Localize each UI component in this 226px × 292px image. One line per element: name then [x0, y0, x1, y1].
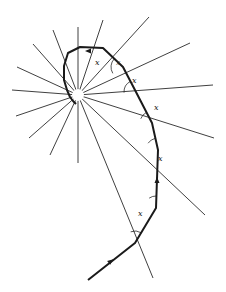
angle-label: x — [154, 103, 159, 112]
angle-label: x — [95, 58, 100, 67]
radial-line — [29, 95, 78, 138]
arrow-icon — [155, 177, 160, 183]
center-point — [72, 89, 84, 101]
spiral-diagram: xxxxxx — [0, 0, 226, 292]
angle-label: x — [116, 58, 121, 67]
radial-line — [78, 17, 149, 95]
arrow-icon — [85, 49, 91, 54]
radial-line — [50, 95, 78, 155]
angle-label: x — [138, 209, 143, 218]
angle-arc — [131, 231, 141, 233]
angle-label: x — [132, 76, 137, 85]
radial-line — [78, 95, 214, 138]
angle-label: x — [158, 154, 163, 163]
radial-line — [78, 85, 213, 95]
radial-line — [78, 95, 205, 215]
radial-line — [78, 95, 153, 278]
radial-line — [16, 95, 78, 116]
angle-arc — [148, 138, 155, 143]
angle-arc — [149, 196, 156, 198]
angle-arc — [111, 59, 114, 74]
direction-arrows — [85, 49, 160, 265]
